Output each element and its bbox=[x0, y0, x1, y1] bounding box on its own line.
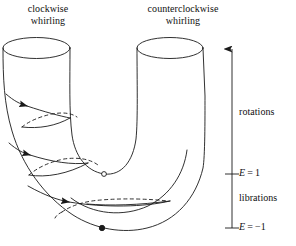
trajectory-1-front-cont bbox=[27, 106, 70, 118]
label-librations: librations bbox=[239, 192, 277, 204]
energy-axis-group bbox=[225, 49, 239, 228]
label-counterclockwise-line1: counterclockwise bbox=[148, 3, 219, 14]
unstable-fixed-point-marker bbox=[102, 172, 107, 177]
label-clockwise-whirling: clockwise whirling bbox=[6, 3, 90, 26]
trajectory-2-front-inner bbox=[29, 163, 88, 176]
left-cylinder-rim-ellipse bbox=[3, 38, 70, 59]
energy-upper-relation: = 1 bbox=[245, 167, 260, 178]
trajectory-1-back bbox=[22, 113, 77, 127]
trajectory-rotation-low bbox=[9, 143, 98, 176]
label-clockwise-line1: clockwise bbox=[28, 3, 68, 14]
trajectory-3-back-tail bbox=[55, 212, 62, 218]
tube-inner-bend bbox=[70, 48, 137, 174]
figure-container: clockwise whirling counterclockwise whir… bbox=[0, 0, 296, 246]
label-energy-lower: E = −1 bbox=[239, 221, 266, 233]
label-energy-upper: E = 1 bbox=[239, 167, 260, 179]
trajectory-1-front bbox=[6, 94, 27, 106]
tube-outer-silhouette bbox=[3, 48, 205, 230]
label-counterclockwise-line2: whirling bbox=[166, 15, 200, 26]
trajectory-2-front bbox=[9, 143, 30, 155]
right-cylinder-rim-ellipse bbox=[137, 38, 203, 59]
phase-space-tube-diagram bbox=[0, 0, 296, 246]
energy-lower-relation: = −1 bbox=[245, 221, 266, 232]
trajectory-libration bbox=[28, 186, 170, 218]
trajectory-1-front-inner bbox=[22, 118, 70, 128]
label-counterclockwise-whirling: counterclockwise whirling bbox=[128, 3, 238, 26]
tube-outline-group bbox=[3, 38, 205, 231]
trajectory-rotation-high bbox=[6, 94, 77, 128]
tube-inner-rear-edge bbox=[71, 150, 187, 213]
label-rotations: rotations bbox=[239, 106, 274, 118]
stable-fixed-point-marker bbox=[99, 225, 104, 230]
label-clockwise-line2: whirling bbox=[31, 15, 65, 26]
